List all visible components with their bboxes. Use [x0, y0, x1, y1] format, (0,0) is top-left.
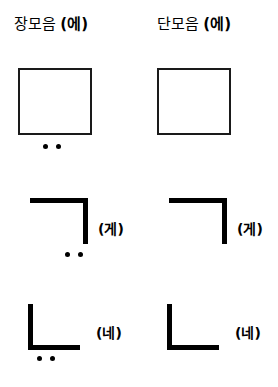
diagram-sheet: 장모음(에) 단모음(에) (게): [0, 0, 278, 387]
glyph-group-square-short: [157, 68, 231, 135]
nieun-shape-icon: [28, 304, 80, 350]
dot: [56, 144, 61, 149]
cell-nieun-short-vowel: (네): [139, 296, 278, 387]
giyeok-horizontal-stroke: [169, 198, 227, 203]
column-header-long-vowel-label: 장모음: [14, 15, 56, 33]
glyph-group-square-long: [18, 68, 92, 135]
syllable-label: (네): [235, 326, 261, 340]
column-header-short-vowel-paren: (에): [203, 15, 231, 33]
giyeok-vertical-stroke: [222, 198, 227, 244]
syllable-label: (네): [96, 326, 122, 340]
cell-square-short-vowel: [139, 58, 278, 168]
glyph-group-nieun-short: (네): [167, 304, 261, 350]
nieun-vertical-stroke: [167, 304, 172, 350]
cell-giyeok-long-vowel: (게): [0, 190, 139, 282]
nieun-horizontal-stroke: [28, 345, 80, 350]
dot: [43, 144, 48, 149]
nieun-shape-icon: [167, 304, 219, 350]
glyph-group-nieun-long: (네): [28, 304, 122, 350]
column-header-row: 장모음(에) 단모음(에): [0, 14, 278, 44]
two-dot-mark-icon: [41, 142, 67, 162]
giyeok-vertical-stroke: [83, 198, 88, 244]
column-header-long-vowel: 장모음(에): [14, 14, 88, 34]
cell-giyeok-short-vowel: (게): [139, 190, 278, 282]
square-shape-icon: [18, 68, 92, 135]
giyeok-shape-icon: [169, 198, 227, 244]
column-header-long-vowel-paren: (에): [60, 15, 88, 33]
dot: [50, 356, 55, 361]
giyeok-horizontal-stroke: [30, 198, 88, 203]
syllable-label: (게): [237, 222, 263, 236]
column-header-short-vowel: 단모음(에): [157, 14, 231, 34]
glyph-group-giyeok-long: (게): [30, 198, 124, 244]
two-dot-mark-icon: [35, 354, 61, 374]
nieun-horizontal-stroke: [167, 345, 219, 350]
square-shape-icon: [157, 68, 231, 135]
dot: [78, 252, 83, 257]
glyph-group-giyeok-short: (게): [169, 198, 263, 244]
dot: [37, 356, 42, 361]
column-header-short-vowel-label: 단모음: [157, 15, 199, 33]
dot: [65, 252, 70, 257]
nieun-vertical-stroke: [28, 304, 33, 350]
giyeok-shape-icon: [30, 198, 88, 244]
two-dot-mark-icon: [63, 250, 89, 270]
cell-nieun-long-vowel: (네): [0, 296, 139, 387]
cell-square-long-vowel: [0, 58, 139, 168]
syllable-label: (게): [98, 222, 124, 236]
